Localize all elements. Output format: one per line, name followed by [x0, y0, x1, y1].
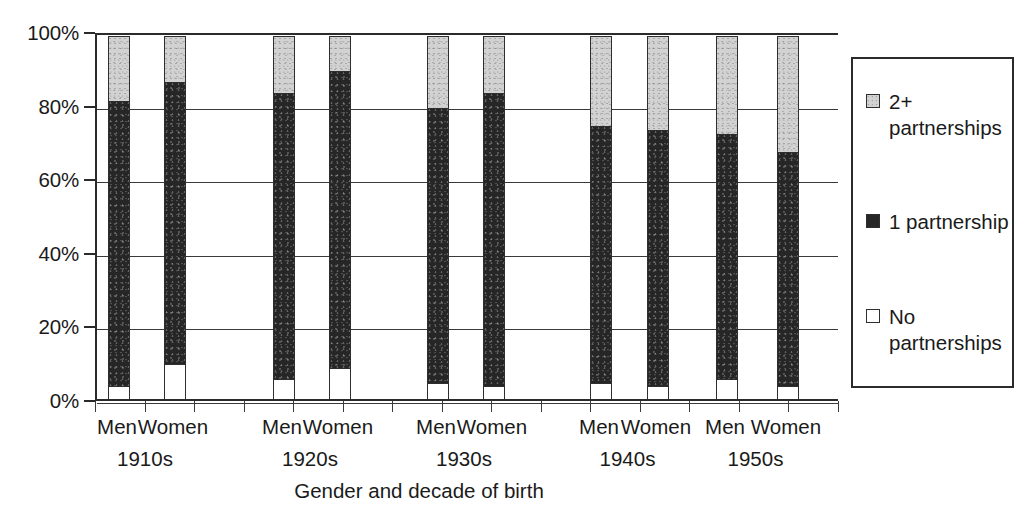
- x-minor-tick: [442, 401, 443, 412]
- x-label-women-1930s: Women: [457, 415, 527, 439]
- y-tick-mark: [84, 326, 95, 328]
- legend-label: 2+ partnerships: [889, 89, 1012, 141]
- y-tick-mark: [84, 106, 95, 108]
- bar-men-1950s[interactable]: [716, 33, 738, 401]
- bar-segment-one-partnership: [108, 101, 130, 388]
- bar-women-1950s[interactable]: [777, 33, 799, 401]
- x-minor-tick: [293, 401, 294, 412]
- bar-segment-one-partnership: [427, 108, 449, 384]
- y-tick-label: 40%: [39, 242, 79, 266]
- bar-segment-one-partnership: [329, 71, 351, 369]
- white-swatch: [866, 309, 880, 323]
- x-minor-tick: [590, 401, 591, 412]
- x-decade-label-1950s: 1950s: [728, 447, 784, 471]
- legend-label: 1 partnership: [889, 209, 1009, 235]
- x-axis-gender-labels: MenWomenMenWomenMenWomenMenWomenMenWomen: [0, 415, 1034, 445]
- bar-segment-two-plus-partnerships: [483, 36, 505, 95]
- legend-entry-1-partnership[interactable]: 1 partnership: [866, 209, 1009, 235]
- x-label-women-1920s: Women: [303, 415, 373, 439]
- bar-segment-no-partnerships: [164, 364, 186, 401]
- y-tick-mark: [84, 179, 95, 181]
- x-minor-tick: [788, 401, 789, 412]
- y-tick-mark: [84, 400, 95, 402]
- light-gray-swatch: [866, 94, 880, 108]
- bar-men-1920s[interactable]: [273, 33, 295, 401]
- bar-segment-two-plus-partnerships: [777, 36, 799, 154]
- bar-women-1920s[interactable]: [329, 33, 351, 401]
- y-tick-label: 20%: [39, 315, 79, 339]
- bar-segment-one-partnership: [647, 130, 669, 388]
- x-minor-tick: [739, 401, 740, 412]
- bar-women-1940s[interactable]: [647, 33, 669, 401]
- bar-segment-two-plus-partnerships: [108, 36, 130, 102]
- bar-women-1930s[interactable]: [483, 33, 505, 401]
- bar-segment-one-partnership: [777, 152, 799, 388]
- bar-segment-two-plus-partnerships: [647, 36, 669, 132]
- x-minor-tick: [145, 401, 146, 412]
- y-tick-mark: [84, 253, 95, 255]
- bar-segment-one-partnership: [483, 93, 505, 387]
- bar-men-1940s[interactable]: [590, 33, 612, 401]
- x-decade-label-1930s: 1930s: [436, 447, 492, 471]
- bars-layer: [97, 35, 838, 401]
- x-decade-label-1920s: 1920s: [282, 447, 338, 471]
- y-tick-label: 60%: [39, 168, 79, 192]
- bar-segment-no-partnerships: [329, 368, 351, 401]
- x-label-men-1950s: Men: [705, 415, 745, 439]
- x-label-men-1940s: Men: [579, 415, 619, 439]
- x-label-women-1950s: Women: [751, 415, 821, 439]
- y-tick-mark: [84, 32, 95, 34]
- bar-men-1930s[interactable]: [427, 33, 449, 401]
- x-decade-label-1940s: 1940s: [600, 447, 656, 471]
- bar-segment-two-plus-partnerships: [590, 36, 612, 128]
- x-minor-tick: [491, 401, 492, 412]
- stacked-bar-chart: 0%20%40%60%80%100% MenWomenMenWomenMenWo…: [0, 0, 1034, 523]
- x-label-women-1910s: Women: [138, 415, 208, 439]
- y-tick-label: 100%: [27, 21, 79, 45]
- bar-women-1910s[interactable]: [164, 33, 186, 401]
- x-axis-decade-labels: 1910s1920s1930s1940s1950s: [0, 447, 1034, 477]
- bar-segment-two-plus-partnerships: [164, 36, 186, 84]
- y-tick-label: 0%: [50, 389, 79, 413]
- black-swatch: [866, 214, 880, 228]
- y-tick-label: 80%: [39, 95, 79, 119]
- legend-entry-no-partnerships[interactable]: No partnerships: [866, 304, 1012, 356]
- bar-segment-one-partnership: [273, 93, 295, 380]
- x-label-men-1910s: Men: [97, 415, 137, 439]
- x-decade-label-1910s: 1910s: [117, 447, 173, 471]
- bar-segment-one-partnership: [164, 82, 186, 365]
- bar-segment-two-plus-partnerships: [273, 36, 295, 95]
- bar-segment-two-plus-partnerships: [716, 36, 738, 135]
- x-axis-title: Gender and decade of birth: [0, 479, 838, 503]
- x-minor-tick: [541, 401, 542, 412]
- bar-segment-two-plus-partnerships: [329, 36, 351, 73]
- x-label-men-1930s: Men: [416, 415, 456, 439]
- bar-segment-no-partnerships: [716, 379, 738, 401]
- x-minor-tick: [838, 401, 839, 412]
- plot-area: [95, 33, 838, 401]
- x-label-men-1920s: Men: [262, 415, 302, 439]
- x-label-women-1940s: Women: [621, 415, 691, 439]
- legend-entry-2-partnerships[interactable]: 2+ partnerships: [866, 89, 1012, 141]
- bar-segment-two-plus-partnerships: [427, 36, 449, 110]
- bar-segment-no-partnerships: [273, 379, 295, 401]
- bar-segment-one-partnership: [716, 134, 738, 381]
- x-minor-tick: [392, 401, 393, 412]
- x-minor-tick: [343, 401, 344, 412]
- x-minor-tick: [244, 401, 245, 412]
- legend-label: No partnerships: [889, 304, 1012, 356]
- x-axis-ticks: [95, 401, 838, 413]
- bar-segment-one-partnership: [590, 126, 612, 384]
- chart-legend: 2+ partnerships1 partnershipNo partnersh…: [851, 57, 1014, 388]
- bar-men-1910s[interactable]: [108, 33, 130, 401]
- x-minor-tick: [95, 401, 96, 412]
- x-minor-tick: [640, 401, 641, 412]
- x-minor-tick: [689, 401, 690, 412]
- x-minor-tick: [194, 401, 195, 412]
